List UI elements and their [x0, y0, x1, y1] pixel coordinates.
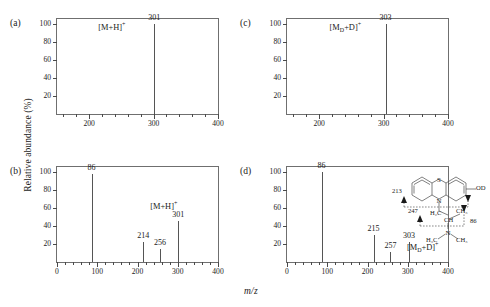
y-axis-tick-label: 60: [273, 204, 281, 212]
x-axis-minor-tick: [432, 262, 433, 265]
panel-a-plot-area: 20406080100200300400301[M+H]+: [56, 18, 219, 115]
spectrum-peak: [160, 249, 161, 262]
y-axis-tick-label: 100: [270, 20, 281, 28]
y-axis-tick-label: 20: [43, 240, 51, 248]
x-axis-tick-label: 200: [132, 268, 143, 276]
structure-label-CH3-bottom: CH₃: [456, 237, 467, 244]
x-axis-minor-tick: [63, 114, 64, 117]
y-axis-tick-label: 100: [40, 20, 51, 28]
y-axis-tick: [53, 96, 57, 97]
x-axis-minor-tick: [422, 114, 423, 117]
x-axis-minor-tick: [105, 262, 106, 265]
sulfur-atom-label: S: [437, 176, 441, 184]
y-axis-tick: [283, 190, 287, 191]
x-axis-minor-tick: [102, 114, 103, 117]
y-axis-tick-label: 60: [273, 56, 281, 64]
y-axis-tick-label: 80: [43, 38, 51, 46]
x-axis-minor-tick: [146, 262, 147, 265]
x-axis-minor-tick: [384, 262, 385, 265]
y-axis-tick: [283, 24, 287, 25]
x-axis-minor-tick: [166, 114, 167, 117]
y-axis-tick-label: 40: [43, 74, 51, 82]
x-axis-minor-tick: [343, 262, 344, 265]
x-axis-minor-tick: [141, 114, 142, 117]
structure-label-H2C: H₂C: [430, 210, 441, 217]
y-axis-tick: [53, 172, 57, 173]
x-axis-tick-label: 100: [92, 268, 103, 276]
fragment-label-86: 86: [470, 218, 477, 225]
y-axis-tick: [53, 42, 57, 43]
ion-annotation-label: [M+H]+: [150, 200, 177, 211]
ring-nitrogen-label: N: [436, 197, 441, 205]
y-axis-tick: [283, 42, 287, 43]
x-axis-minor-tick: [345, 114, 346, 117]
panel-b: (b) 20406080100010020030040086214256301[…: [8, 158, 223, 288]
x-axis-tick-label: 300: [402, 268, 413, 276]
x-axis-tick-label: 200: [313, 120, 324, 128]
spectrum-peak: [143, 242, 144, 262]
x-axis-tick-label: 400: [212, 120, 223, 128]
y-axis-tick-label: 80: [273, 38, 281, 46]
x-axis-minor-tick: [192, 114, 193, 117]
peak-mz-label: 303: [403, 232, 415, 240]
structure-label-CH3-right: CH₃: [456, 208, 467, 215]
y-axis-tick-label: 20: [273, 92, 281, 100]
x-axis-tick-label: 200: [362, 268, 373, 276]
y-axis-tick: [53, 190, 57, 191]
spectrum-peak: [374, 235, 375, 262]
y-axis-tick: [53, 208, 57, 209]
x-axis-minor-tick: [376, 262, 377, 265]
peak-mz-label: 214: [137, 232, 149, 240]
x-axis-minor-tick: [202, 262, 203, 265]
panel-c-plot-area: 20406080100200300400303[MD+D]+: [286, 18, 449, 115]
x-axis-tick-label: 300: [172, 268, 183, 276]
y-axis-tick: [283, 208, 287, 209]
x-axis-minor-tick: [435, 114, 436, 117]
x-axis-minor-tick: [351, 262, 352, 265]
x-axis-minor-tick: [170, 262, 171, 265]
x-axis-tick-label: 300: [148, 120, 159, 128]
panel-c: (c) 20406080100200300400303[MD+D]+: [238, 10, 453, 140]
y-axis-tick: [283, 172, 287, 173]
y-axis-tick: [283, 244, 287, 245]
x-axis-tick-label: 300: [378, 120, 389, 128]
x-axis-minor-tick: [121, 262, 122, 265]
spectrum-peak: [386, 24, 387, 114]
x-axis-minor-tick: [210, 262, 211, 265]
panel-b-tag: (b): [10, 166, 21, 176]
amine-nitrogen-label: N: [445, 229, 450, 237]
x-axis-minor-tick: [65, 262, 66, 265]
x-axis-minor-tick: [396, 114, 397, 117]
x-axis-minor-tick: [115, 114, 116, 117]
x-axis-minor-tick: [129, 262, 130, 265]
x-axis-tick-label: 0: [55, 268, 59, 276]
peak-mz-label: 257: [384, 242, 396, 250]
panel-d: (d): [238, 158, 453, 288]
y-axis-tick-label: 100: [270, 168, 281, 176]
ion-annotation-label: [M+H]+: [98, 21, 125, 32]
x-axis-minor-tick: [162, 262, 163, 265]
structure-label-OD: OD: [476, 185, 486, 192]
y-axis-tick-label: 20: [43, 92, 51, 100]
x-axis-minor-tick: [303, 262, 304, 265]
x-axis-minor-tick: [205, 114, 206, 117]
x-axis-minor-tick: [358, 114, 359, 117]
panel-d-tag: (d): [240, 166, 251, 176]
ion-annotation-label: [MD+D]+: [407, 241, 439, 253]
x-axis-tick-label: 100: [322, 268, 333, 276]
peak-mz-label: 303: [380, 14, 392, 22]
x-axis-minor-tick: [128, 114, 129, 117]
structure-label-CH: CH: [444, 217, 453, 224]
peak-mz-label: 301: [148, 14, 160, 22]
y-axis-tick-label: 40: [273, 222, 281, 230]
x-axis-minor-tick: [76, 114, 77, 117]
x-axis-minor-tick: [113, 262, 114, 265]
x-axis-minor-tick: [335, 262, 336, 265]
fragment-label-213: 213: [392, 188, 402, 195]
y-axis-tick: [283, 226, 287, 227]
panel-a-tag: (a): [10, 18, 21, 28]
y-axis-tick-label: 60: [43, 204, 51, 212]
y-axis-tick: [283, 60, 287, 61]
x-axis-minor-tick: [293, 114, 294, 117]
x-axis-minor-tick: [424, 262, 425, 265]
